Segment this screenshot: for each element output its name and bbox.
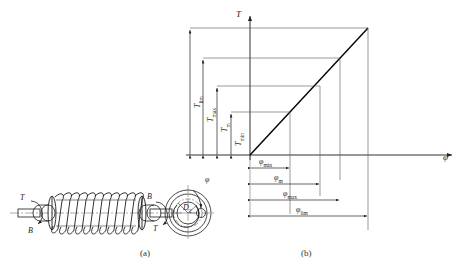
chart-axes <box>186 16 452 160</box>
label-torque-left: T <box>20 193 24 202</box>
label-moment-right: B <box>147 192 152 201</box>
label-moment-left: B <box>28 226 33 235</box>
figure-canvas <box>0 0 463 273</box>
dim-label-t-min: Tmin <box>234 133 245 146</box>
dim-label-t-lim: Tlim <box>193 96 204 108</box>
label-phi-angle: φ <box>205 175 209 184</box>
caption-b: (b) <box>301 248 312 258</box>
dim-label-phi-max: φmax <box>283 189 297 200</box>
phi-axis-label: φ <box>443 152 448 162</box>
dim-label-phi-m: φm <box>274 173 283 184</box>
torque-arrow-right <box>156 202 167 225</box>
angle-dimension-lines <box>251 168 367 216</box>
characteristic-line <box>250 28 368 155</box>
dim-label-t-max: Tmax <box>206 108 217 122</box>
dim-label-t-m: Tm <box>220 123 231 132</box>
dim-label-phi-lim: φlim <box>296 205 308 216</box>
dim-label-phi-min: φmin <box>259 157 272 168</box>
t-axis-label: T <box>236 9 241 19</box>
label-diameter: D2 <box>183 203 192 214</box>
label-torque-right: T <box>153 224 157 233</box>
figure-root: T φ Tlim Tmax Tm Tmin φmin φm φmax φlim … <box>0 0 463 273</box>
caption-a: (a) <box>140 248 150 258</box>
torque-dimension-lines <box>190 30 231 155</box>
